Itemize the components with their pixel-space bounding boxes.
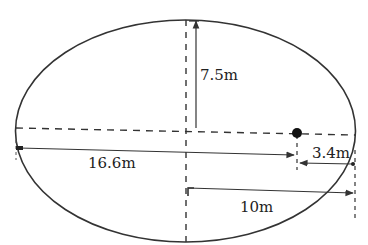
label-3-4m: 3.4m bbox=[312, 144, 350, 162]
focus-right-arrow bbox=[300, 163, 353, 164]
ellipse-diagram: 7.5m 16.6m 3.4m 10m bbox=[0, 0, 368, 245]
focus-dot bbox=[292, 128, 302, 138]
label-16-6m: 16.6m bbox=[88, 154, 136, 172]
focus-left-arrow bbox=[19, 148, 294, 155]
label-10m: 10m bbox=[240, 198, 273, 216]
label-7-5m: 7.5m bbox=[200, 66, 238, 84]
right-endpoint-mark bbox=[351, 162, 355, 166]
left-endpoint-mark bbox=[16, 146, 23, 150]
semi-major-cap bbox=[188, 188, 194, 196]
